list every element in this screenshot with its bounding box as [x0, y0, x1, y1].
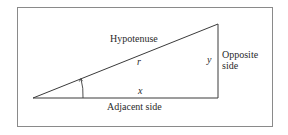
- adjacent-variable: x: [138, 85, 142, 96]
- angle-arc-icon: [79, 79, 83, 98]
- triangle-diagram: [0, 0, 288, 135]
- opposite-side-label-line1: Opposite: [222, 49, 258, 60]
- opposite-side-label-line2: side: [222, 60, 238, 71]
- opposite-variable: y: [207, 54, 211, 65]
- adjacent-side-label: Adjacent side: [107, 101, 162, 112]
- hypotenuse-variable: r: [137, 56, 141, 67]
- hypotenuse-label: Hypotenuse: [110, 33, 158, 44]
